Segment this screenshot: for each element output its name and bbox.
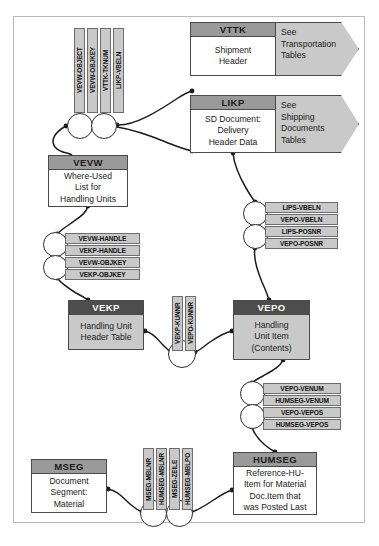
entity-name-humseg: HUMSEG [234,453,316,467]
entity-description-vttk: ShipmentHeader [191,37,275,75]
entity-name-vevw: VEVW [49,156,127,170]
entity-description-line: Segment: [51,487,88,499]
entity-name-vekp: VEKP [69,301,143,315]
key-chip-vevw-objkey-2: VEVW-OBJKEY [65,257,140,268]
rel-vepo-vepos [240,404,265,429]
chevron-text-line: See [281,100,324,112]
entity-vttk[interactable]: VTTKShipmentHeader [190,22,276,76]
key-chip-vevw-handle: VEVW-HANDLE [65,233,140,244]
entity-name-likp: LIKP [191,96,275,110]
key-chip-humseg-vepos: HUMSEG-VEPOS [263,419,341,430]
entity-description-line: Shipment [215,45,251,57]
key-chip-vekp-kunnr: VEKP-KUNNR [172,296,183,351]
key-chip-lips-vbeln: LIPS-VBELN [265,202,338,213]
entity-description-line: Reference-HU- [246,468,304,480]
entity-description-line: Handling [255,320,289,332]
entity-likp[interactable]: LIKPSD Document:DeliveryHeader Data [190,95,276,153]
entity-description-line: Handling Unit [80,321,132,333]
chevron-text-line: Documents [281,123,324,135]
key-chip-mseg-zeile: MSEG-ZEILE [169,448,180,510]
chevron-text-line: Transportation [281,39,336,51]
key-chip-vekp-objkey: VEKP-OBJKEY [65,269,140,280]
entity-description-line: Doc.Item that [249,491,300,503]
entity-description-line: Item for Material [244,479,306,491]
entity-description-line: (Contents) [251,343,291,355]
key-chip-vepo-vbeln: VEPO-VBELN [265,214,338,225]
entity-description-line: SD Document: [205,114,261,126]
key-chip-vepo-venum: VEPO-VENUM [263,383,341,394]
key-chip-vepo-kunnr: VEPO-KUNNR [185,296,196,351]
entity-vekp[interactable]: VEKPHandling UnitHeader Table [68,300,144,350]
key-chip-vepo-posnr: VEPO-POSNR [265,238,338,249]
entity-description-vekp: Handling UnitHeader Table [69,315,143,349]
entity-name-vttk: VTTK [191,23,275,37]
diagram-canvas: VTTKShipmentHeaderLIKPSD Document:Delive… [0,0,379,546]
entity-description-humseg: Reference-HU-Item for MaterialDoc.Item t… [234,467,316,514]
rel-vevw-vttk [67,113,93,139]
entity-description-line: Delivery [217,125,248,137]
key-chip-vevw-object: VEVW-OBJECT [74,28,85,113]
entity-description-likp: SD Document:DeliveryHeader Data [191,110,275,152]
entity-humseg[interactable]: HUMSEGReference-HU-Item for MaterialDoc.… [233,452,317,515]
key-chip-vttk-tknum: VTTK-TKNUM [100,28,111,113]
entity-description-vepo: HandlingUnit Item(Contents) [234,315,309,359]
chevron-text-line: Tables [281,135,324,147]
entity-mseg[interactable]: MSEGDocumentSegment:Material [31,459,107,513]
entity-description-mseg: DocumentSegment:Material [32,474,106,512]
chevron-text-line: Shipping [281,112,324,124]
chevron-text-line: See [281,27,336,39]
rel-vevw-likp [91,113,117,139]
entity-description-line: Header Data [209,137,258,149]
entity-description-line: was Posted Last [243,502,306,514]
chevron-text: SeeTransportationTables [281,27,336,62]
key-chip-likp-vbeln: LIKP-VBELN [113,28,124,113]
entity-name-vepo: VEPO [234,301,309,315]
chevron-text-line: Tables [281,50,336,62]
key-chip-vekp-handle: VEKP-HANDLE [65,245,140,256]
entity-description-line: Handling Units [60,194,116,206]
entity-vepo[interactable]: VEPOHandlingUnit Item(Contents) [233,300,310,360]
entity-name-mseg: MSEG [32,460,106,474]
key-chip-humseg-venum: HUMSEG-VENUM [263,395,341,406]
key-chip-mseg-mblnr: MSEG-MBLNR [143,448,154,510]
entity-description-line: Header Table [81,332,132,344]
entity-description-vevw: Where-UsedList forHandling Units [49,170,127,206]
key-chip-vevw-objkey: VEVW-OBJKEY [87,28,98,113]
key-chip-humseg-mblnr: HUMSEG-MBLNR [156,448,167,510]
key-chip-humseg-mblpo: HUMSEG-MBLPO [182,448,193,510]
rel-vepo-venum [240,381,265,406]
key-chip-vepo-vepos: VEPO-VEPOS [263,407,341,418]
entity-description-line: Document [49,476,88,488]
entity-description-line: Material [54,499,85,511]
key-chip-lips-posnr: LIPS-POSNR [265,226,338,237]
entity-description-line: Header [219,56,247,68]
entity-description-line: Where-Used [64,171,112,183]
entity-vevw[interactable]: VEVWWhere-UsedList forHandling Units [48,155,128,207]
entity-description-line: List for [75,182,101,194]
chevron-text: SeeShippingDocumentsTables [281,100,324,146]
entity-description-line: Unit Item [254,331,288,343]
